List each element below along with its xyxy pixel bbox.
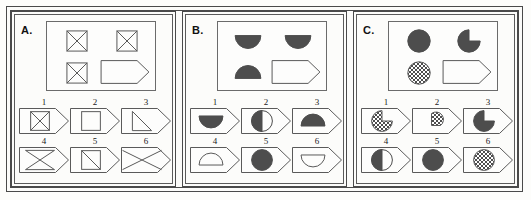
option-shape-half-circle-left[interactable] — [241, 108, 291, 134]
option-tag[interactable] — [190, 108, 240, 134]
option-tag[interactable] — [412, 108, 462, 134]
option-tag[interactable] — [292, 147, 342, 173]
option-tag[interactable] — [121, 147, 171, 173]
figure-root: A.123456B.123456C.123456 — [0, 0, 531, 200]
option-1[interactable]: 1 — [361, 98, 411, 136]
option-tag[interactable] — [70, 108, 120, 134]
option-tag[interactable] — [463, 108, 513, 134]
option-number: 5 — [241, 136, 291, 146]
matrix-shape-circle-full — [397, 27, 441, 55]
matrix-cell-top-left — [397, 27, 441, 55]
option-2[interactable]: 2 — [241, 98, 291, 136]
option-5[interactable]: 5 — [70, 137, 120, 175]
matrix-cell-bottom-right — [270, 57, 322, 87]
matrix-shape-square-with-x — [105, 27, 149, 55]
option-4[interactable]: 4 — [190, 137, 240, 175]
option-shape-square-plain[interactable] — [70, 108, 120, 134]
option-tag[interactable] — [70, 147, 120, 173]
option-number: 2 — [412, 97, 462, 107]
option-tag[interactable] — [292, 108, 342, 134]
matrix-cell-top-right — [105, 27, 149, 55]
option-number: 3 — [463, 97, 513, 107]
option-tag[interactable] — [19, 147, 69, 173]
matrix-cell-bottom-left — [226, 59, 270, 87]
option-number: 1 — [361, 97, 411, 107]
option-tag[interactable] — [121, 108, 171, 134]
option-shape-semicircle-up[interactable] — [292, 108, 342, 134]
option-1[interactable]: 1 — [190, 98, 240, 136]
matrix-shape-circle-full — [397, 59, 441, 87]
option-shape-pacman-circle[interactable] — [463, 108, 513, 134]
matrix-shape-tag-pentagon-blank — [270, 57, 322, 87]
option-tag[interactable] — [412, 147, 462, 173]
matrix-shape-square-with-x — [55, 27, 99, 55]
option-tag[interactable] — [19, 108, 69, 134]
matrix-cell-top-right — [447, 27, 491, 55]
option-5[interactable]: 5 — [412, 137, 462, 175]
option-6[interactable]: 6 — [292, 137, 342, 175]
answer-options: 123456 — [190, 98, 342, 176]
option-shape-triangle-right-lower[interactable] — [121, 108, 171, 134]
matrix-box — [46, 21, 156, 91]
option-tag[interactable] — [463, 147, 513, 173]
option-4[interactable]: 4 — [361, 137, 411, 175]
option-shape-circle-full[interactable] — [412, 147, 462, 173]
option-shape-pie-wedge-small[interactable] — [412, 108, 462, 134]
matrix-cell-bottom-right — [99, 57, 151, 87]
option-number: 5 — [70, 136, 120, 146]
option-shape-circle-full[interactable] — [241, 147, 291, 173]
panel-container: A.123456B.123456C.123456 — [11, 11, 518, 187]
matrix-shape-pacman-circle — [447, 27, 491, 55]
matrix-shape-square-with-x — [55, 59, 99, 87]
option-tag[interactable] — [361, 147, 411, 173]
matrix-shape-semicircle-down — [276, 27, 320, 55]
option-number: 6 — [121, 136, 171, 146]
option-shape-semicircle-down[interactable] — [190, 108, 240, 134]
option-tag[interactable] — [361, 108, 411, 134]
option-6[interactable]: 6 — [121, 137, 171, 175]
option-shape-pacman-circle[interactable] — [361, 108, 411, 134]
option-2[interactable]: 2 — [70, 98, 120, 136]
answer-options: 123456 — [361, 98, 513, 176]
option-4[interactable]: 4 — [19, 137, 69, 175]
option-number: 3 — [292, 97, 342, 107]
option-shape-semicircle-up[interactable] — [190, 147, 240, 173]
option-3[interactable]: 3 — [463, 98, 513, 136]
matrix-cell-top-left — [55, 27, 99, 55]
option-number: 3 — [121, 97, 171, 107]
option-number: 1 — [190, 97, 240, 107]
panel-b: B.123456 — [182, 11, 347, 187]
matrix-cell-bottom-right — [441, 57, 493, 87]
matrix-box — [388, 21, 498, 91]
option-1[interactable]: 1 — [19, 98, 69, 136]
option-shape-circle-full[interactable] — [463, 147, 513, 173]
panel-letter: B. — [192, 24, 203, 36]
option-tag[interactable] — [190, 147, 240, 173]
option-number: 1 — [19, 97, 69, 107]
option-2[interactable]: 2 — [412, 98, 462, 136]
option-number: 4 — [19, 136, 69, 146]
matrix-box — [217, 21, 327, 91]
option-shape-semicircle-down[interactable] — [292, 147, 342, 173]
option-3[interactable]: 3 — [292, 98, 342, 136]
option-shape-square-with-diagonal[interactable] — [70, 147, 120, 173]
option-tag[interactable] — [241, 108, 291, 134]
option-shape-square-with-x[interactable] — [19, 108, 69, 134]
option-number: 4 — [361, 136, 411, 146]
option-6[interactable]: 6 — [463, 137, 513, 175]
option-5[interactable]: 5 — [241, 137, 291, 175]
option-shape-large-x[interactable] — [121, 147, 171, 173]
option-number: 5 — [412, 136, 462, 146]
matrix-shape-tag-pentagon-blank — [441, 57, 493, 87]
option-3[interactable]: 3 — [121, 98, 171, 136]
option-shape-half-circle-left[interactable] — [361, 147, 411, 173]
panel-a: A.123456 — [11, 11, 176, 187]
panel-letter: A. — [21, 24, 32, 36]
matrix-cell-bottom-left — [397, 59, 441, 87]
option-tag[interactable] — [241, 147, 291, 173]
option-number: 6 — [463, 136, 513, 146]
option-number: 2 — [70, 97, 120, 107]
option-shape-bowtie-hourglass[interactable] — [19, 147, 69, 173]
matrix-cell-top-right — [276, 27, 320, 55]
option-number: 4 — [190, 136, 240, 146]
